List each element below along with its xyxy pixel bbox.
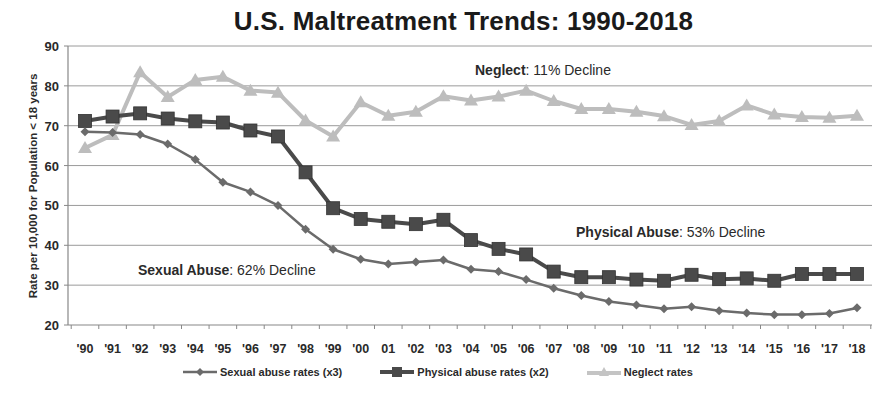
series-triangle: [78, 65, 864, 153]
data-point: [604, 297, 613, 306]
x-tick-label: '09: [600, 342, 617, 356]
data-point: [356, 255, 365, 264]
data-point: [685, 268, 698, 281]
data-point: [79, 114, 92, 127]
data-point: [575, 271, 588, 284]
legend-item-neglect: Neglect rates: [587, 366, 693, 378]
x-tick-label: 01: [381, 342, 395, 356]
x-tick-label: '92: [132, 342, 149, 356]
x-tick-label: '05: [490, 342, 507, 356]
data-point: [742, 309, 751, 318]
data-series: [78, 65, 864, 319]
data-point: [795, 267, 808, 280]
data-point: [492, 242, 505, 255]
data-point: [299, 166, 312, 179]
x-tick-label: '17: [821, 342, 838, 356]
x-tick-label: '96: [242, 342, 259, 356]
x-tick-label: '08: [573, 342, 590, 356]
y-tick-label: 60: [45, 159, 59, 174]
legend-item-sexual: Sexual abuse rates (x3): [183, 366, 342, 378]
data-point: [740, 98, 754, 110]
x-tick-label: '07: [545, 342, 562, 356]
data-point: [630, 273, 643, 286]
data-point: [216, 116, 229, 129]
data-point: [106, 110, 119, 123]
data-point: [520, 248, 533, 261]
x-tick-label: '14: [738, 342, 755, 356]
data-point: [244, 124, 257, 137]
x-tick-label: '93: [159, 342, 176, 356]
x-tick-label: '99: [325, 342, 342, 356]
data-point: [577, 291, 586, 300]
data-point: [354, 95, 368, 107]
x-tick-label: '13: [711, 342, 728, 356]
data-point: [467, 265, 476, 274]
annotation-physical-value: : 53% Decline: [679, 224, 765, 240]
data-point: [133, 65, 147, 77]
y-tick-label: 90: [45, 39, 59, 54]
x-tick-label: '94: [187, 342, 204, 356]
x-tick-label: '03: [435, 342, 452, 356]
data-point: [851, 267, 864, 280]
annotation-physical: Physical Abuse: 53% Decline: [576, 224, 765, 240]
data-point: [189, 115, 202, 128]
y-tick-labels: 2030405060708090: [45, 39, 59, 333]
data-point: [272, 130, 285, 143]
annotation-physical-label: Physical Abuse: [576, 224, 679, 240]
data-point: [439, 256, 448, 265]
data-point: [384, 260, 393, 269]
plot-area: 2030405060708090 '90'91'92'93'94'95'96'9…: [0, 0, 887, 399]
x-tick-label: '00: [352, 342, 369, 356]
y-tick-label: 20: [45, 318, 59, 333]
data-point: [136, 130, 145, 139]
legend-item-physical: Physical abuse rates (x2): [380, 366, 548, 378]
data-point: [740, 272, 753, 285]
y-tick-label: 30: [45, 278, 59, 293]
annotation-sexual-value: : 62% Decline: [229, 262, 315, 278]
data-point: [354, 212, 367, 225]
annotation-sexual-label: Sexual Abuse: [138, 262, 229, 278]
x-tick-label: '90: [77, 342, 94, 356]
legend-label-neglect: Neglect rates: [624, 366, 693, 378]
annotation-neglect: Neglect: 11% Decline: [475, 62, 611, 78]
x-tick-label: '11: [656, 342, 672, 356]
data-point: [768, 274, 781, 287]
x-tick-label: '06: [518, 342, 535, 356]
annotation-neglect-value: : 11% Decline: [526, 62, 611, 78]
diamond-marker-icon: [183, 367, 217, 377]
series-square: [79, 107, 864, 287]
y-tick-label: 50: [45, 198, 59, 213]
x-tick-label: '16: [793, 342, 810, 356]
data-point: [382, 215, 395, 228]
x-tick-labels: '90'91'92'93'94'95'96'97'98'99'0001'02'0…: [77, 342, 866, 356]
x-tick-label: '95: [214, 342, 231, 356]
data-point: [687, 302, 696, 311]
data-point: [823, 267, 836, 280]
data-point: [411, 258, 420, 267]
x-tick-label: '02: [407, 342, 424, 356]
x-tick-label: '12: [683, 342, 700, 356]
annotation-neglect-label: Neglect: [475, 62, 526, 78]
x-tick-label: '91: [104, 342, 121, 356]
data-point: [825, 309, 834, 318]
x-tick-label: '04: [463, 342, 480, 356]
data-point: [715, 306, 724, 315]
data-point: [246, 187, 255, 196]
square-marker-icon: [380, 366, 414, 378]
data-point: [409, 218, 422, 231]
data-point: [713, 273, 726, 286]
data-point: [327, 202, 340, 215]
data-point: [602, 271, 615, 284]
x-tick-label: '15: [766, 342, 783, 356]
data-point: [660, 304, 669, 313]
legend-label-physical: Physical abuse rates (x2): [417, 366, 548, 378]
data-point: [437, 213, 450, 226]
x-tick-label: '98: [297, 342, 314, 356]
annotation-sexual: Sexual Abuse: 62% Decline: [138, 262, 316, 278]
legend-label-sexual: Sexual abuse rates (x3): [220, 366, 342, 378]
data-point: [797, 310, 806, 319]
triangle-marker-icon: [587, 366, 621, 378]
data-point: [465, 234, 478, 247]
data-point: [547, 265, 560, 278]
x-tick-label: '18: [849, 342, 866, 356]
